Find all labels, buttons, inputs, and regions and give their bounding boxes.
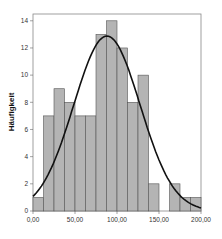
histogram-bar	[149, 184, 160, 211]
y-tick-label: 0	[24, 207, 28, 214]
histogram-bar	[75, 116, 86, 211]
y-tick-label: 14	[21, 17, 29, 24]
histogram-bar	[86, 116, 97, 211]
histogram-bar	[117, 48, 128, 211]
histogram-bar	[138, 75, 149, 211]
histogram-bar	[96, 34, 107, 211]
histogram-bar	[107, 21, 118, 211]
y-tick-label: 10	[21, 71, 29, 78]
x-tick-label: 200,00	[191, 216, 211, 223]
x-axis-ticks: 0,0050,00100,00150,00200,00	[27, 211, 212, 223]
histogram-bar	[44, 116, 55, 211]
histogram-bar	[33, 197, 44, 211]
histogram-bar	[170, 184, 181, 211]
y-axis-label: Häufigkeit	[7, 92, 16, 131]
y-tick-label: 8	[24, 99, 28, 106]
x-tick-label: 100,00	[107, 216, 127, 223]
y-tick-label: 4	[24, 153, 28, 160]
x-tick-label: 0,00	[27, 216, 40, 223]
x-tick-label: 150,00	[149, 216, 169, 223]
y-tick-label: 2	[24, 180, 28, 187]
x-tick-label: 50,00	[67, 216, 84, 223]
histogram-chart: 02468101214 0,0050,00100,00150,00200,00 …	[0, 0, 222, 239]
y-axis-ticks: 02468101214	[21, 17, 33, 214]
histogram-bar	[128, 102, 139, 211]
y-tick-label: 12	[21, 44, 29, 51]
y-tick-label: 6	[24, 126, 28, 133]
